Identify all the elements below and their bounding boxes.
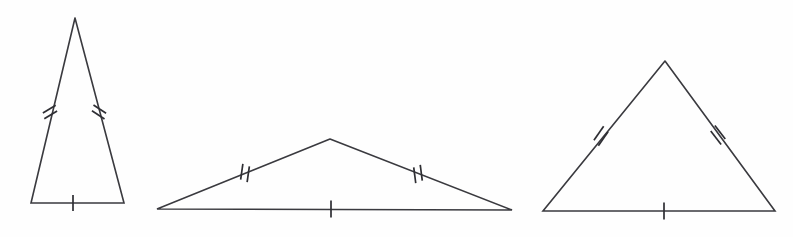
tall-narrow-isosceles-triangle [31,18,124,211]
congruence-tick-icon [420,165,422,181]
near-equilateral-isosceles-triangle-right-leg-double-tick [711,125,726,144]
near-equilateral-isosceles-triangle-left-leg-double-tick [594,126,608,145]
congruence-tick-icon [92,111,105,119]
congruence-tick-icon [598,132,608,146]
congruence-tick-icon [414,167,416,183]
near-equilateral-isosceles-triangle-outline [543,61,775,211]
geometry-figure-canvas [0,0,793,237]
congruence-tick-icon [711,131,721,144]
near-equilateral-isosceles-triangle [543,61,775,220]
congruence-tick-icon [241,164,243,180]
tall-narrow-isosceles-triangle-outline [31,18,124,203]
tall-narrow-isosceles-triangle-left-leg-double-tick [43,105,57,119]
triangles-diagram [0,0,793,237]
congruence-tick-icon [247,166,249,182]
wide-obtuse-isosceles-triangle [157,139,512,218]
wide-obtuse-isosceles-triangle-outline [157,139,512,210]
